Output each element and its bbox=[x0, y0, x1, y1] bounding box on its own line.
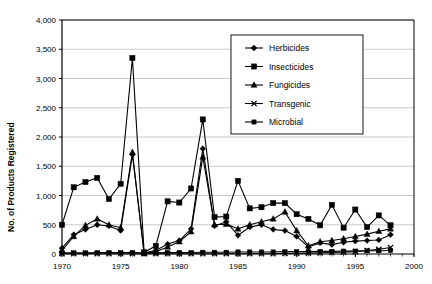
series-marker bbox=[294, 212, 299, 217]
series-marker bbox=[306, 250, 310, 254]
series-marker bbox=[271, 201, 276, 206]
series-marker bbox=[295, 250, 299, 254]
series-marker bbox=[118, 181, 123, 186]
chart-figure: No. of Products Registered 05001,0001,50… bbox=[0, 0, 432, 284]
series-marker bbox=[71, 185, 76, 190]
series-marker bbox=[177, 200, 182, 205]
series-marker bbox=[388, 248, 392, 252]
legend-label: Herbicides bbox=[269, 43, 309, 53]
series-marker bbox=[318, 249, 322, 253]
series-marker bbox=[364, 224, 369, 229]
y-tick-label: 1,500 bbox=[36, 162, 57, 171]
series-marker bbox=[200, 117, 205, 122]
series-marker bbox=[177, 250, 181, 254]
series-marker bbox=[212, 250, 216, 254]
series-marker bbox=[107, 250, 111, 254]
series-marker bbox=[353, 249, 357, 253]
y-axis-title: No. of Products Registered bbox=[6, 122, 16, 232]
legend-label: Fungicides bbox=[269, 80, 310, 90]
y-tick-label: 1,000 bbox=[36, 192, 57, 201]
chart-legend: HerbicidesInsecticidesFungicidesTransgen… bbox=[231, 35, 363, 134]
legend-marker bbox=[252, 120, 256, 124]
y-tick-label: 3,000 bbox=[36, 75, 57, 84]
series-marker bbox=[130, 250, 134, 254]
y-tick-label: 4,000 bbox=[36, 16, 57, 25]
series-marker bbox=[60, 251, 64, 255]
series-marker bbox=[142, 251, 146, 255]
series-marker bbox=[306, 216, 311, 221]
series-marker bbox=[95, 175, 100, 180]
series-marker bbox=[247, 206, 252, 211]
y-tick-label: 0 bbox=[52, 250, 57, 259]
series-marker bbox=[83, 251, 87, 255]
series-marker bbox=[59, 222, 64, 227]
series-marker bbox=[365, 249, 369, 253]
series-marker bbox=[188, 186, 193, 191]
line-chart-canvas: No. of Products Registered 05001,0001,50… bbox=[0, 0, 432, 284]
series-marker bbox=[248, 250, 252, 254]
series-marker bbox=[342, 249, 346, 253]
series-marker bbox=[83, 179, 88, 184]
x-tick-label: 1970 bbox=[53, 262, 71, 271]
series-marker bbox=[377, 249, 381, 253]
series-marker bbox=[130, 55, 135, 60]
series-marker bbox=[235, 178, 240, 183]
y-tick-label: 2,500 bbox=[36, 104, 57, 113]
series-marker bbox=[236, 250, 240, 254]
x-tick-label: 1985 bbox=[229, 262, 247, 271]
y-tick-label: 500 bbox=[43, 221, 57, 230]
series-marker bbox=[283, 250, 287, 254]
series-marker bbox=[153, 243, 158, 248]
series-marker bbox=[106, 196, 111, 201]
series-marker bbox=[95, 250, 99, 254]
legend-label: Transgenic bbox=[269, 99, 311, 109]
series-marker bbox=[224, 250, 228, 254]
series-marker bbox=[282, 201, 287, 206]
series-marker bbox=[376, 213, 381, 218]
series-marker bbox=[119, 250, 123, 254]
series-marker bbox=[259, 205, 264, 210]
series-marker bbox=[341, 225, 346, 230]
y-tick-label: 2,000 bbox=[36, 133, 57, 142]
series-marker bbox=[154, 251, 158, 255]
legend-marker bbox=[251, 64, 256, 69]
legend-label: Microbial bbox=[269, 117, 303, 127]
series-marker bbox=[329, 202, 334, 207]
x-tick-label: 1995 bbox=[346, 262, 364, 271]
series-marker bbox=[318, 223, 323, 228]
x-tick-label: 1980 bbox=[170, 262, 188, 271]
x-tick-label: 2000 bbox=[405, 262, 423, 271]
legend-label: Insecticides bbox=[269, 62, 313, 72]
series-marker bbox=[72, 251, 76, 255]
series-marker bbox=[165, 199, 170, 204]
series-marker bbox=[259, 250, 263, 254]
y-tick-label: 3,500 bbox=[36, 45, 57, 54]
x-tick-label: 1990 bbox=[288, 262, 306, 271]
series-marker bbox=[201, 250, 205, 254]
series-marker bbox=[353, 207, 358, 212]
series-marker bbox=[166, 250, 170, 254]
x-tick-label: 1975 bbox=[112, 262, 130, 271]
series-marker bbox=[330, 249, 334, 253]
series-marker bbox=[189, 250, 193, 254]
series-marker bbox=[271, 250, 275, 254]
series-marker bbox=[224, 214, 229, 219]
